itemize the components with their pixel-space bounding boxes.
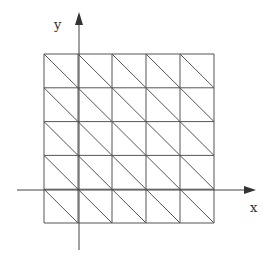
grid-diagonal-line: [180, 54, 214, 88]
grid-diagonal-line: [112, 54, 146, 88]
grid-diagonal-line: [112, 122, 146, 156]
grid-diagonal-line: [44, 88, 78, 122]
grid-diagonal-line: [78, 189, 112, 223]
grid-diagonal-line: [146, 189, 180, 223]
grid-diagonal-line: [44, 122, 78, 156]
grid-diagonal-line: [112, 189, 146, 223]
y-axis-arrow-icon: [75, 12, 83, 25]
x-axis-arrow-icon: [244, 186, 256, 194]
mesh-diagram: x y: [0, 0, 272, 261]
y-axis-label: y: [53, 17, 62, 32]
grid-diagonal-line: [78, 88, 112, 122]
grid-diagonal-line: [180, 122, 214, 156]
grid-diagonal-line: [78, 122, 112, 156]
grid-diagonal-line: [180, 155, 214, 189]
grid-diagonal-line: [44, 54, 78, 88]
grid-diagonal-line: [78, 155, 112, 189]
grid-diagonal-line: [146, 122, 180, 156]
grid-diagonal-line: [146, 155, 180, 189]
grid-diagonal-line: [146, 54, 180, 88]
grid-diagonal-line: [78, 54, 112, 88]
grid-diagonal-line: [180, 189, 214, 223]
grid-diagonal-line: [180, 88, 214, 122]
triangulated-grid: [44, 54, 214, 223]
grid-diagonal-line: [44, 155, 78, 189]
grid-diagonal-line: [44, 189, 78, 223]
x-axis: [17, 186, 256, 194]
y-axis: [75, 12, 83, 250]
grid-diagonal-line: [146, 88, 180, 122]
x-axis-label: x: [250, 200, 258, 215]
grid-diagonal-line: [112, 88, 146, 122]
grid-diagonal-line: [112, 155, 146, 189]
